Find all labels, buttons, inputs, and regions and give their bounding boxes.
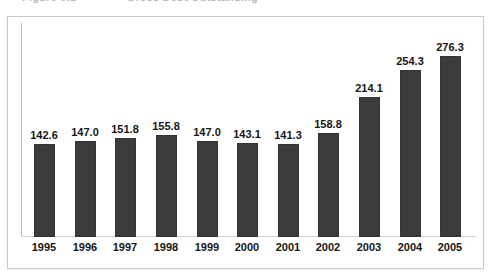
bar-group: 143.1 [228, 21, 266, 237]
bar[interactable] [156, 135, 177, 237]
bar-group: 155.8 [147, 21, 185, 237]
bar-group: 142.6 [25, 21, 63, 237]
x-axis-label: 2005 [427, 241, 473, 253]
bar[interactable] [359, 97, 380, 237]
bar[interactable] [278, 144, 299, 237]
figure-caption-text: Figure 6.1 Gross Debt Outstanding [22, 0, 258, 3]
bar[interactable] [318, 133, 339, 237]
bar-group: 141.3 [269, 21, 307, 237]
bar-value-label: 141.3 [265, 129, 311, 141]
bar-value-label: 214.1 [346, 82, 392, 94]
bar-value-label: 276.3 [427, 41, 473, 53]
figure-root: Figure 6.1 Gross Debt Outstanding 142.61… [0, 0, 494, 276]
bar-series: 142.6147.0151.8155.8147.0143.1141.3158.8… [15, 21, 478, 237]
bar[interactable] [75, 141, 96, 237]
bar-group: 147.0 [66, 21, 104, 237]
figure-caption-number: Figure 6.1 [22, 0, 76, 3]
bar[interactable] [115, 138, 136, 237]
bar[interactable] [34, 144, 55, 237]
bar-group: 158.8 [309, 21, 347, 237]
bar-group: 151.8 [106, 21, 144, 237]
figure-caption-clipped: Figure 6.1 Gross Debt Outstanding [0, 0, 494, 9]
bar-value-label: 143.1 [224, 128, 270, 140]
x-axis-label: 1998 [143, 241, 189, 253]
chart-frame: 142.6147.0151.8155.8147.0143.1141.3158.8… [7, 16, 484, 269]
bar-group: 276.3 [431, 21, 469, 237]
bar[interactable] [197, 141, 218, 237]
bar-value-label: 254.3 [387, 55, 433, 67]
x-axis-labels: 1995199619971998199920002001200220032004… [15, 241, 478, 261]
bar-value-label: 155.8 [143, 120, 189, 132]
bar-value-label: 151.8 [102, 123, 148, 135]
bar-group: 147.0 [188, 21, 226, 237]
x-axis-label: 2003 [346, 241, 392, 253]
figure-caption-title: Gross Debt Outstanding [127, 0, 259, 3]
bar-value-label: 142.6 [21, 129, 67, 141]
bar[interactable] [400, 70, 421, 237]
bar-group: 214.1 [350, 21, 388, 237]
x-axis-label: 2002 [305, 241, 351, 253]
plot-area: 142.6147.0151.8155.8147.0143.1141.3158.8… [15, 21, 478, 264]
bar-value-label: 158.8 [305, 118, 351, 130]
x-axis-label: 2000 [224, 241, 270, 253]
bar[interactable] [440, 56, 461, 237]
bar[interactable] [237, 143, 258, 237]
x-axis-label: 1997 [102, 241, 148, 253]
x-axis-label: 1995 [21, 241, 67, 253]
bar-group: 254.3 [391, 21, 429, 237]
